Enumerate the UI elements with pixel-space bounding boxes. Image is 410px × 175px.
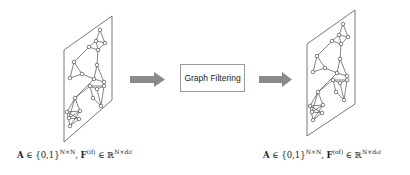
- graph-node: [311, 118, 315, 122]
- formula-text: ∈ {0,1}: [270, 150, 306, 160]
- formula-text: ∈ ℝ: [343, 150, 362, 160]
- graph-node: [337, 33, 341, 37]
- graph-node: [342, 98, 346, 102]
- graph-node: [95, 87, 99, 91]
- graph-node: [102, 84, 106, 88]
- graph-node: [316, 90, 320, 94]
- graph-node: [103, 41, 107, 45]
- graph-node: [96, 48, 100, 52]
- graph-node: [98, 28, 102, 32]
- graph-filtering-label: Graph Filtering: [184, 73, 240, 83]
- graph-node: [323, 66, 327, 70]
- graph-node: [341, 22, 345, 26]
- graph-node: [94, 39, 98, 43]
- graph-node: [80, 72, 84, 76]
- graph-node: [308, 104, 312, 108]
- graph-node: [339, 42, 343, 46]
- graph-node: [68, 124, 72, 128]
- graph-node: [330, 39, 334, 43]
- graph-node: [320, 111, 324, 115]
- formula-A: A: [263, 150, 270, 160]
- graph-node: [95, 63, 99, 67]
- graph-node: [68, 76, 72, 80]
- graph-node: [338, 57, 342, 61]
- graph-node: [65, 110, 69, 114]
- formula-sup: (of): [333, 148, 344, 155]
- arrow-left: [130, 72, 165, 87]
- arrow-right: [259, 72, 292, 87]
- graph-node: [310, 110, 314, 114]
- output-formula: A ∈ {0,1}N×N, F(of) ∈ ℝN×dof: [263, 148, 381, 160]
- graph-node: [335, 71, 339, 75]
- graph-node: [91, 96, 95, 100]
- graph-node: [87, 45, 91, 49]
- graph-node: [334, 90, 338, 94]
- input-formula: A ∈ {0,1}N×N, F(if) ∈ ℝN×dif: [17, 148, 132, 160]
- graph-node: [78, 109, 82, 113]
- graph-node: [67, 116, 71, 120]
- graph-node: [346, 35, 350, 39]
- graph-node: [315, 54, 319, 58]
- graph-node: [345, 74, 349, 78]
- graph-node: [338, 81, 342, 85]
- formula-sup: N×N: [306, 148, 322, 155]
- graph-filtering-box: Graph Filtering: [180, 64, 245, 92]
- input-graph: [64, 16, 112, 142]
- graph-node: [72, 60, 76, 64]
- formula-text: ∈ ℝ: [95, 150, 114, 160]
- formula-sup: N×N: [60, 148, 76, 155]
- formula-sub: if: [128, 149, 131, 155]
- graph-node: [331, 78, 335, 82]
- formula-sub: of: [376, 149, 381, 155]
- graph-node: [77, 117, 81, 121]
- graph-node: [88, 84, 92, 88]
- graph-node: [73, 96, 77, 100]
- formula-sup: N×d: [114, 148, 128, 155]
- formula-sup: N×d: [362, 148, 376, 155]
- formula-text: ∈ {0,1}: [24, 150, 60, 160]
- graph-node: [102, 80, 106, 84]
- graph-node: [345, 78, 349, 82]
- graph-node: [99, 104, 103, 108]
- output-graph: [307, 10, 355, 136]
- graph-node: [92, 77, 96, 81]
- formula-A: A: [17, 150, 24, 160]
- graph-node: [321, 103, 325, 107]
- graph-node: [311, 70, 315, 74]
